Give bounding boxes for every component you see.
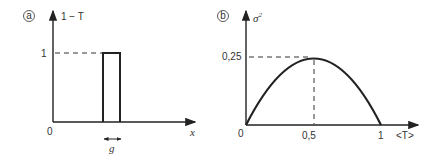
panel-b: b σ2 <T> 0 0,5 1 0,25 <box>218 10 419 141</box>
y-tick-label: 1 <box>41 48 47 59</box>
panel-b-badge: b <box>218 10 229 22</box>
panel-a-badge: a <box>24 10 35 22</box>
y-axis-label: σ2 <box>253 11 262 24</box>
width-label: g <box>109 142 115 154</box>
panel-a-label: a <box>26 10 32 21</box>
pulse-rect <box>103 53 120 122</box>
origin-label: 0 <box>47 126 53 137</box>
x-axis-label: x <box>189 126 195 138</box>
x-tick-label-1: 1 <box>378 130 384 141</box>
x-tick-label-05: 0,5 <box>302 130 316 141</box>
panel-b-label: b <box>220 10 226 21</box>
origin-label: 0 <box>238 128 244 139</box>
x-axis-label: <T> <box>396 130 414 141</box>
y-tick-label: 0,25 <box>222 51 242 62</box>
y-axis-label: 1 − T <box>61 11 84 22</box>
figure: a 1 − T x 0 1 g b σ2 <T> 0 0,5 1 0,25 <box>0 0 446 160</box>
panel-a: a 1 − T x 0 1 g <box>24 10 196 154</box>
